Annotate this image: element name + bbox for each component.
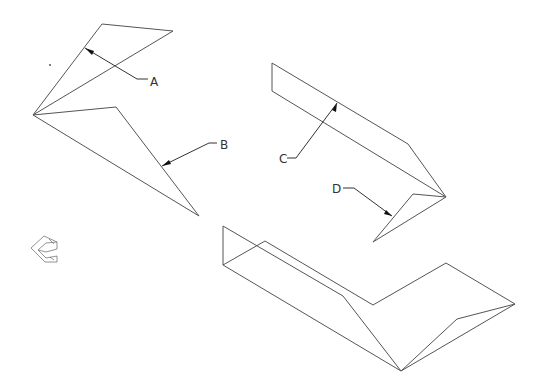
face-c — [272, 63, 446, 197]
arrow-icon — [162, 160, 171, 166]
bottom-assembly — [223, 226, 515, 371]
face-a — [33, 24, 173, 115]
callout-label-d: D — [332, 182, 341, 196]
callout-label-c: C — [279, 152, 287, 166]
drawing-svg: A B C D — [0, 0, 542, 391]
callout-a: A — [85, 48, 159, 89]
callout-b: B — [162, 138, 228, 166]
callout-label-b: B — [220, 138, 228, 152]
face-b — [33, 107, 199, 216]
isometric-view-cube-icon — [31, 236, 57, 262]
arrow-icon — [85, 48, 94, 55]
face-d — [373, 194, 446, 242]
callout-label-a: A — [150, 75, 159, 89]
drawing-canvas: A B C D — [0, 0, 542, 391]
arrow-icon — [332, 103, 337, 112]
callout-d: D — [332, 182, 392, 216]
stray-dot — [49, 64, 51, 66]
